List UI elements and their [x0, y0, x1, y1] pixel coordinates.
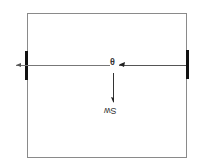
- weight-arrowhead-icon: [111, 97, 114, 103]
- tension-arrowhead-icon: [119, 62, 125, 67]
- physics-diagram: [0, 0, 200, 166]
- enclosure-box: [28, 14, 187, 158]
- left-arrowhead-icon: [16, 63, 21, 67]
- right-support-bar: [186, 50, 189, 79]
- weight-label: Sw: [104, 106, 117, 115]
- angle-label: θ: [110, 58, 115, 67]
